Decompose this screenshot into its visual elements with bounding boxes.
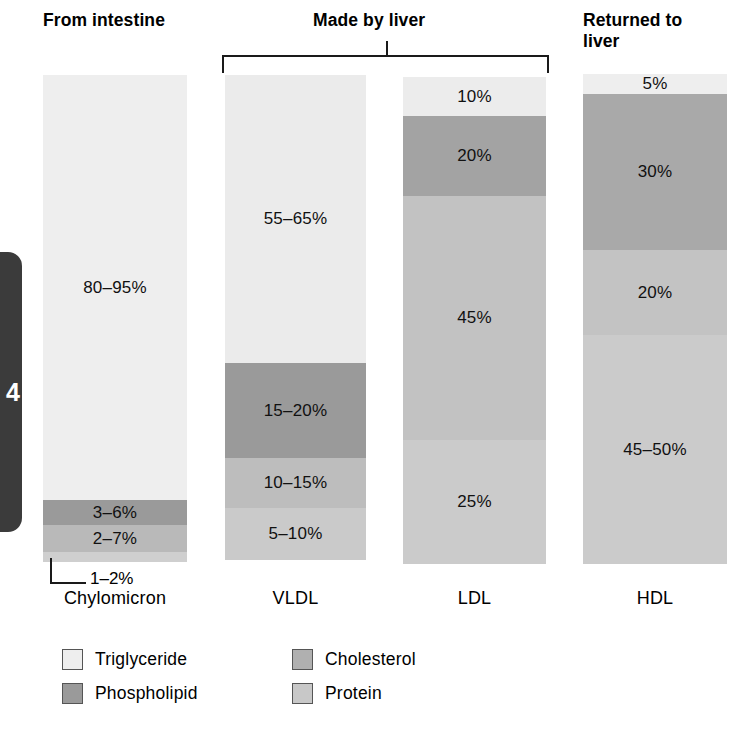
bar-vldl: 55–65%15–20%10–15%5–10% — [225, 75, 366, 560]
protein-callout-leader — [50, 558, 86, 584]
segment-value-label: 20% — [403, 146, 546, 166]
page-tab-number: 4 — [6, 380, 20, 405]
legend-row: TriglycerideCholesterol — [62, 642, 542, 676]
bar-hdl: 5%30%20%45–50% — [583, 74, 727, 564]
bar-segment-cholesterol: 2–7% — [43, 525, 187, 552]
segment-value-label: 45–50% — [583, 439, 727, 459]
segment-value-label: 3–6% — [43, 502, 187, 522]
segment-value-label: 20% — [583, 282, 727, 302]
bar-segment-phospholipid: 3–6% — [43, 500, 187, 525]
legend-label: Cholesterol — [325, 649, 416, 670]
legend-label: Protein — [325, 683, 382, 704]
heading-returned-to-liver: Returned to liver — [583, 10, 682, 51]
bar-segment-protein: 5–10% — [225, 508, 366, 560]
bar-chylomicron: 80–95%3–6%2–7% — [43, 75, 187, 562]
segment-value-label: 25% — [403, 492, 546, 512]
protein-callout-label: 1–2% — [90, 569, 133, 589]
caption-vldl: VLDL — [225, 588, 366, 609]
bar-ldl: 10%20%45%25% — [403, 77, 546, 564]
segment-value-label: 2–7% — [43, 528, 187, 548]
segment-value-label: 45% — [403, 308, 546, 328]
legend-item-triglyceride: Triglyceride — [62, 649, 292, 670]
legend-item-cholesterol: Cholesterol — [292, 649, 416, 670]
figure-canvas: 4 From intestine Made by liver Returned … — [0, 0, 749, 749]
bar-segment-triglyceride: 5% — [583, 74, 727, 94]
legend-swatch-protein — [292, 683, 313, 704]
legend-swatch-phospholipid — [62, 683, 83, 704]
segment-value-label: 55–65% — [225, 209, 366, 229]
segment-value-label: 10–15% — [225, 473, 366, 493]
segment-value-label: 5–10% — [225, 524, 366, 544]
legend-item-protein: Protein — [292, 683, 382, 704]
bar-segment-phospholipid: 30% — [583, 94, 727, 250]
bracket-stem — [386, 41, 388, 57]
segment-value-label: 15–20% — [225, 400, 366, 420]
segment-value-label: 5% — [583, 74, 727, 94]
made-by-liver-bracket — [222, 55, 549, 73]
bar-segment-phospholipid: 20% — [403, 116, 546, 196]
legend-swatch-triglyceride — [62, 649, 83, 670]
bar-segment-cholesterol: 10–15% — [225, 458, 366, 508]
segment-value-label: 80–95% — [43, 277, 187, 297]
page-tab: 4 — [0, 252, 22, 532]
bar-segment-triglyceride: 55–65% — [225, 75, 366, 363]
bar-segment-protein: 45–50% — [583, 335, 727, 564]
legend-item-phospholipid: Phospholipid — [62, 683, 292, 704]
bar-segment-phospholipid: 15–20% — [225, 363, 366, 458]
caption-hdl: HDL — [583, 588, 727, 609]
legend-label: Phospholipid — [95, 683, 198, 704]
legend: TriglycerideCholesterolPhospholipidProte… — [62, 642, 542, 710]
heading-made-by-liver: Made by liver — [313, 10, 425, 31]
legend-row: PhospholipidProtein — [62, 676, 542, 710]
caption-ldl: LDL — [403, 588, 546, 609]
segment-value-label: 10% — [403, 86, 546, 106]
segment-value-label: 30% — [583, 162, 727, 182]
bar-segment-triglyceride: 80–95% — [43, 75, 187, 500]
bar-segment-triglyceride: 10% — [403, 77, 546, 116]
caption-chylomicron: Chylomicron — [43, 588, 187, 609]
heading-from-intestine: From intestine — [43, 10, 165, 31]
bar-segment-cholesterol: 20% — [583, 250, 727, 335]
bar-segment-cholesterol: 45% — [403, 196, 546, 440]
bar-segment-protein: 25% — [403, 440, 546, 564]
legend-swatch-cholesterol — [292, 649, 313, 670]
legend-label: Triglyceride — [95, 649, 187, 670]
